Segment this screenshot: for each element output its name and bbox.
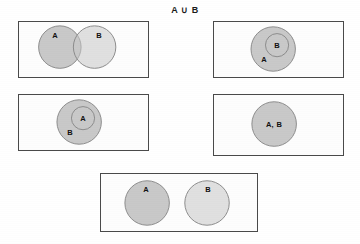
venn-shapes-b-inside-a — [214, 22, 343, 77]
set-label-ab: A, B — [266, 120, 282, 129]
set-circle-b — [73, 26, 115, 68]
venn-shapes-disjoint — [101, 174, 257, 231]
diagram-title: A ∪ B — [160, 5, 210, 15]
set-label-a: A — [80, 114, 86, 123]
set-label-b: B — [67, 128, 73, 137]
panel-disjoint — [100, 173, 258, 232]
venn-shapes-overlapping — [19, 22, 148, 77]
set-label-b: B — [205, 185, 211, 194]
venn-diagram-stage: A ∪ B ABBAABA, BAB — [0, 0, 360, 244]
set-label-b: B — [274, 41, 280, 50]
set-label-a: A — [261, 55, 267, 64]
set-label-a: A — [52, 31, 58, 40]
set-label-a: A — [143, 185, 149, 194]
set-label-b: B — [96, 31, 102, 40]
venn-shapes-a-inside-b — [19, 95, 148, 150]
panel-a-inside-b — [18, 94, 149, 151]
panel-b-inside-a — [213, 21, 344, 78]
panel-overlapping — [18, 21, 149, 78]
